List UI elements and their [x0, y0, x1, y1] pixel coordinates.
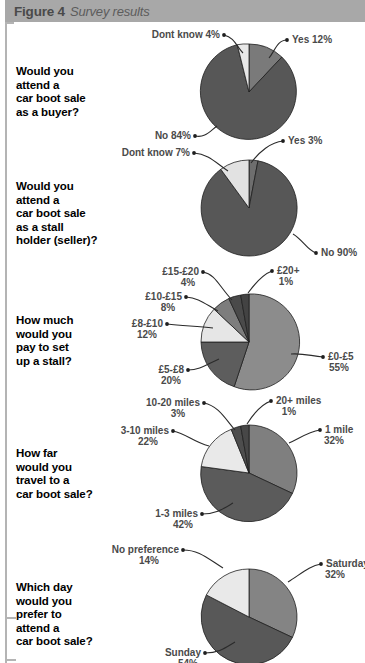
- survey-row-2: Would you attend a car boot sale as a st…: [7, 130, 365, 270]
- leader-dot-15-20: [201, 270, 205, 274]
- figure-header: Figure 4 Survey results: [5, 0, 365, 22]
- figure-label: Figure 4: [14, 4, 65, 19]
- question-text-4: How far would you travel to a car boot s…: [16, 447, 131, 501]
- figure-subtitle: Survey results: [70, 4, 150, 19]
- leader-15-20: [203, 272, 232, 300]
- label-0-5-name: £0-£5: [328, 351, 354, 362]
- label-20plus-value: 1%: [282, 406, 297, 417]
- label-10-20-value: 3%: [171, 408, 186, 419]
- question-text-2: Would you attend a car boot sale as a st…: [16, 180, 136, 248]
- leader-1-mile: [289, 430, 320, 443]
- leader-dot-1-3: [200, 512, 204, 516]
- leader-dot-10-15: [184, 295, 188, 299]
- leader-dot-3-10: [171, 429, 175, 433]
- leader-dot-5-8: [186, 368, 190, 372]
- leader-dot-1-mile: [318, 428, 322, 432]
- survey-row-5: Which day would you prefer to attend a c…: [7, 520, 365, 663]
- label-10-20-name: 10-20 miles: [146, 397, 200, 408]
- label-no-2: No 90%: [321, 247, 357, 258]
- label-no-preference-value: 14%: [139, 555, 159, 566]
- label-3-10-name: 3-10 miles: [121, 425, 170, 436]
- leader-20plus: [247, 401, 271, 424]
- leader-yes: [251, 141, 283, 163]
- label-20plus-name: 20+ miles: [276, 395, 322, 406]
- label-1-mile-value: 32%: [324, 435, 344, 446]
- pie-chart-3: £15-£20 4% £20+ 1% £10-£15 8% £8-£10 12%…: [131, 260, 365, 400]
- label-20plus-value: 1%: [279, 276, 294, 287]
- leader-dot-yes: [285, 38, 289, 42]
- leader-dot-8-10: [165, 322, 169, 326]
- pie-chart-4: 10-20 miles 3% 20+ miles 1% 3-10 miles 2…: [131, 390, 365, 530]
- figure-body: Would you attend a car boot sale as a bu…: [5, 22, 365, 663]
- leader-dot-dontknow: [192, 151, 196, 155]
- leader-dot-sunday: [203, 651, 207, 655]
- leader-saturday: [288, 564, 321, 582]
- leader-dot-saturday: [319, 562, 323, 566]
- leader-no-preference: [183, 550, 223, 568]
- label-15-20-name: £15-£20: [162, 266, 199, 277]
- leader-dot-0-5: [321, 355, 325, 359]
- label-yes-2: Yes 3%: [288, 135, 323, 146]
- label-10-15-name: £10-£15: [145, 291, 182, 302]
- leader-dot-10-20: [202, 401, 206, 405]
- leader-dot-no-preference: [181, 548, 185, 552]
- label-sunday-name: Sunday: [165, 647, 202, 658]
- survey-row-4: How far would you travel to a car boot s…: [7, 390, 365, 530]
- label-0-5-value: 55%: [329, 362, 349, 373]
- question-text-5: Which day would you prefer to attend a c…: [16, 581, 131, 649]
- label-5-8-value: 20%: [161, 375, 181, 386]
- leader-10-15: [186, 297, 218, 311]
- label-dontknow-1: Dont know 4%: [152, 29, 220, 40]
- label-1-mile-name: 1 mile: [325, 424, 354, 435]
- leader-dot-20plus: [270, 269, 274, 273]
- label-15-20-value: 4%: [181, 277, 196, 288]
- leader-dot-dontknow: [222, 33, 226, 37]
- label-no-preference-name: No preference: [112, 544, 180, 555]
- pie-chart-5: No preference 14% Saturday 32% Sunday 54…: [131, 520, 365, 663]
- label-8-10-value: 12%: [137, 329, 157, 340]
- survey-row-3: How much would you pay to set up a stall…: [7, 260, 365, 400]
- leader-dot-20plus: [269, 399, 273, 403]
- label-8-10-name: £8-£10: [132, 318, 164, 329]
- label-yes-1: Yes 12%: [292, 34, 332, 45]
- label-20plus-name: £20+: [277, 265, 300, 276]
- label-dontknow-2: Dont know 7%: [122, 147, 190, 158]
- label-saturday-name: Saturday: [326, 558, 365, 569]
- leader-20plus: [248, 271, 272, 293]
- label-sunday-value: 54%: [178, 658, 198, 663]
- label-5-8-name: £5-£8: [158, 364, 184, 375]
- label-saturday-value: 32%: [325, 569, 345, 580]
- question-text-1: Would you attend a car boot sale as a bu…: [16, 65, 131, 119]
- question-text-3: How much would you pay to set up a stall…: [16, 314, 131, 368]
- leader-no: [293, 234, 316, 253]
- pie-chart-2: Dont know 7% Yes 3% No 90%: [131, 130, 365, 270]
- label-3-10-value: 22%: [138, 436, 158, 447]
- figure-container: Figure 4 Survey results Would you attend…: [0, 0, 365, 663]
- leader-dot-yes: [281, 139, 285, 143]
- leader-10-20: [204, 403, 235, 430]
- label-1-3-name: 1-3 miles: [155, 508, 198, 519]
- leader-dot-no: [314, 251, 318, 255]
- leader-3-10: [173, 431, 209, 446]
- label-10-15-value: 8%: [161, 302, 176, 313]
